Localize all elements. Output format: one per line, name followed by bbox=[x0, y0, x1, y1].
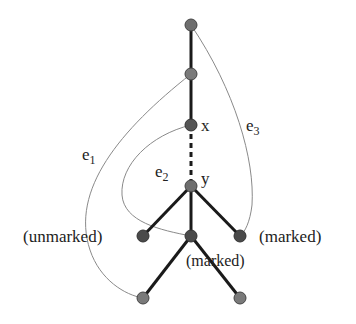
node-bottom-right bbox=[234, 292, 246, 304]
label-e2: e2 bbox=[155, 162, 169, 184]
tree-edge bbox=[143, 236, 191, 298]
node-root bbox=[185, 19, 197, 31]
label-middle-marked: (marked) bbox=[186, 252, 245, 270]
node-x bbox=[185, 119, 197, 131]
node-right-marked bbox=[234, 230, 246, 242]
label-y: y bbox=[201, 169, 210, 188]
tree-edge bbox=[191, 186, 240, 236]
node-y bbox=[185, 180, 197, 192]
tree-diagram: x y e1 e2 e3 (unmarked) (marked) (marked… bbox=[0, 0, 356, 324]
label-unmarked: (unmarked) bbox=[23, 227, 102, 246]
node-bottom-left bbox=[137, 292, 149, 304]
tree-edge bbox=[143, 186, 191, 236]
node-middle-marked bbox=[185, 230, 197, 242]
label-e1: e1 bbox=[82, 145, 96, 167]
label-e3: e3 bbox=[246, 116, 260, 138]
label-x: x bbox=[201, 116, 210, 135]
label-right-marked: (marked) bbox=[259, 227, 321, 246]
node-a bbox=[185, 68, 197, 80]
edge-e1 bbox=[86, 74, 191, 298]
node-left-unmarked bbox=[137, 230, 149, 242]
